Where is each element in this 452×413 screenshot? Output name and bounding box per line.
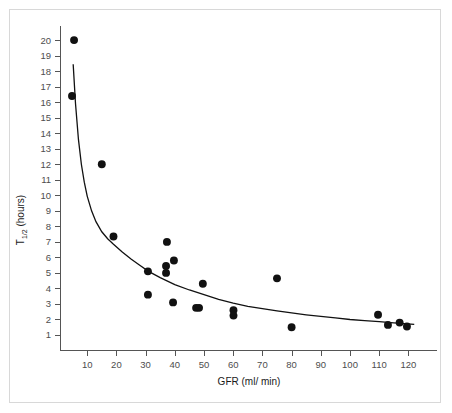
y-tick-label: 4 [46,283,51,294]
y-axis-title: T1/2 (hours) [15,195,28,245]
data-points [68,36,411,331]
y-tick-label: 15 [40,112,51,123]
x-tick-label: 120 [400,359,416,370]
y-tick-label: 20 [40,35,51,46]
data-point-marker [162,262,170,270]
x-axis-ticks: 102030405060708090100110120 [82,351,416,371]
x-tick-label: 40 [170,359,181,370]
figure-container: 1234567891011121314151617181920 10203040… [0,0,452,413]
x-tick-label: 60 [228,359,239,370]
data-point-marker [98,160,106,168]
data-point-marker [288,323,296,331]
y-tick-label: 5 [46,267,51,278]
fitted-curve [73,64,414,324]
x-tick-label: 50 [199,359,210,370]
x-tick-label: 100 [342,359,358,370]
y-tick-label: 6 [46,252,51,263]
data-point-marker [374,311,382,319]
y-tick-label: 2 [46,314,51,325]
y-axis-title-text: T1/2 (hours) [15,195,28,245]
y-axis-ticks: 1234567891011121314151617181920 [40,35,60,341]
y-tick-label: 11 [41,174,51,185]
data-point-marker [199,280,207,288]
data-point-marker [70,36,78,44]
y-tick-label: 17 [40,81,51,92]
y-axis-title-subscript: 1/2 [21,229,28,239]
y-tick-label: 16 [40,97,51,108]
y-tick-label: 19 [40,50,51,61]
data-point-marker [169,298,177,306]
y-tick-label: 12 [40,159,51,170]
data-point-marker [163,238,171,246]
data-point-marker [384,321,392,329]
data-point-marker [230,312,238,320]
x-tick-label: 80 [286,359,297,370]
x-tick-label: 30 [140,359,151,370]
y-tick-label: 10 [40,190,51,201]
data-point-marker [144,267,152,275]
scatter-plot: 1234567891011121314151617181920 10203040… [0,0,452,413]
x-tick-label: 110 [372,359,387,370]
y-tick-label: 1 [46,329,51,340]
y-tick-label: 3 [46,298,51,309]
y-tick-label: 7 [46,236,51,247]
y-tick-label: 13 [40,143,51,154]
y-tick-label: 9 [46,205,51,216]
data-point-marker [273,274,281,282]
data-point-marker [170,257,178,265]
x-axis-title: GFR (ml/ min) [218,376,281,387]
x-tick-label: 10 [82,359,93,370]
axes [61,26,438,351]
data-point-marker [162,269,170,277]
y-tick-label: 18 [40,66,51,77]
data-point-marker [195,304,203,312]
data-point-marker [396,319,404,327]
data-point-marker [110,233,118,241]
data-point-marker [403,323,411,331]
y-axis-title-unit: (hours) [15,195,26,229]
x-axis-title-label: GFR (ml/ min) [218,376,281,387]
y-tick-label: 8 [46,221,51,232]
data-point-marker [144,291,152,299]
y-tick-label: 14 [40,128,51,139]
x-tick-label: 90 [316,359,327,370]
data-point-marker [68,92,76,100]
x-tick-label: 70 [257,359,268,370]
x-tick-label: 20 [111,359,122,370]
